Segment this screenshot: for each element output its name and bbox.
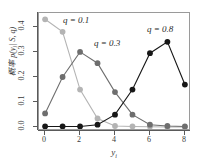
data-point-marker [60, 29, 66, 35]
x-tick-label: 8 [176, 135, 192, 144]
series-line [45, 19, 185, 127]
x-axis-label-subscript: i [115, 153, 117, 159]
data-point-marker [42, 111, 48, 117]
x-tick-label: 6 [141, 135, 157, 144]
data-point-marker [95, 122, 101, 128]
y-tick-mark [33, 126, 37, 127]
y-axis-label-head: 概率 p(y [8, 47, 17, 75]
data-point-marker [112, 89, 118, 95]
data-point-marker [42, 124, 48, 130]
data-point-marker [165, 39, 171, 45]
data-point-marker [77, 87, 83, 93]
x-tick-label: 0 [36, 135, 52, 144]
y-tick-mark [33, 101, 37, 102]
y-tick-label: 0.1 [17, 91, 26, 111]
data-point-marker [42, 16, 48, 22]
data-point-marker [147, 50, 153, 56]
y-axis-label-tail: | S, q) [8, 27, 17, 46]
y-tick-label: 0.4 [17, 15, 26, 35]
data-point-marker [95, 60, 101, 66]
x-tick-label: 4 [106, 135, 122, 144]
data-point-marker [77, 49, 83, 55]
data-point-marker [95, 116, 101, 122]
data-point-marker [130, 87, 136, 93]
data-point-marker [112, 112, 118, 118]
y-tick-label: 0.3 [17, 40, 26, 60]
x-axis-label: yi [38, 147, 190, 159]
series-annotation-label: q = 0.1 [63, 15, 89, 25]
x-tick-label: 2 [71, 135, 87, 144]
data-point-marker [130, 112, 136, 118]
y-tick-mark [33, 51, 37, 52]
data-point-marker [60, 74, 66, 80]
series-annotation-label: q = 0.3 [94, 38, 120, 48]
chart-figure: 概率 p(yi| S, q) 0.00.10.20.30.4 02468 q =… [0, 0, 202, 167]
data-point-marker [77, 124, 83, 130]
data-point-marker [112, 123, 118, 129]
data-point-marker [130, 124, 136, 130]
data-point-marker [182, 82, 188, 88]
data-point-marker [165, 123, 171, 129]
data-point-marker [147, 122, 153, 128]
data-point-marker [60, 124, 66, 130]
y-tick-label: 0.0 [17, 116, 26, 136]
data-point-marker [182, 124, 188, 130]
y-tick-mark [33, 26, 37, 27]
y-tick-label: 0.2 [17, 66, 26, 86]
series-annotation-label: q = 0.8 [147, 24, 173, 34]
y-tick-mark [33, 76, 37, 77]
